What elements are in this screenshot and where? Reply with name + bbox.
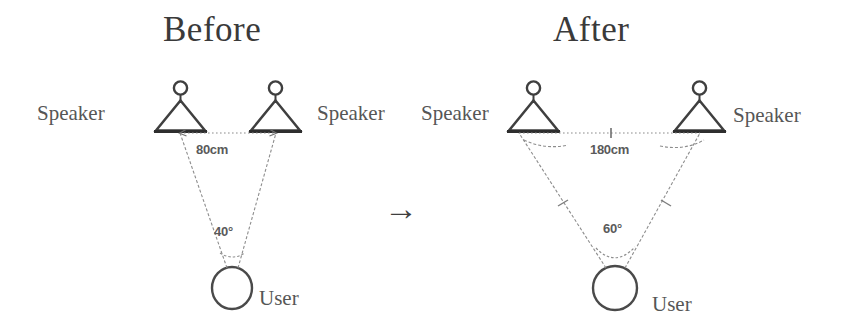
before-right-speaker-icon (249, 81, 302, 131)
after-user-head-icon (593, 266, 637, 310)
after-distance-label: 180cm (590, 143, 629, 156)
after-panel-title: After (553, 12, 629, 47)
after-right-speaker-icon (673, 81, 726, 131)
before-right-axis-line (238, 133, 276, 268)
diagram-canvas: Before After Speaker Speaker Speaker Spe… (0, 0, 854, 336)
before-left-speaker-icon (154, 81, 207, 131)
before-diagram (154, 81, 302, 309)
after-diagram (507, 81, 726, 310)
after-angle-label: 60° (603, 222, 622, 235)
before-angle-label: 40° (214, 225, 233, 238)
after-right-speaker-label: Speaker (733, 105, 801, 126)
transition-right-arrow-icon: → (384, 192, 418, 226)
after-left-axis-tick (558, 200, 568, 206)
after-angle-arc (596, 247, 635, 258)
before-panel-title: Before (163, 12, 261, 47)
after-left-speaker-label: Speaker (421, 103, 489, 124)
before-right-speaker-label: Speaker (317, 103, 385, 124)
before-distance-label: 80cm (196, 143, 228, 156)
after-right-axis-tick (661, 200, 671, 206)
before-user-label: User (259, 288, 299, 309)
after-user-label: User (652, 294, 692, 315)
before-left-speaker-label: Speaker (37, 103, 105, 124)
after-right-speaker-arc (660, 140, 704, 148)
diagram-vector-layer (0, 0, 854, 336)
after-left-speaker-arc (524, 140, 568, 147)
after-left-speaker-icon (507, 81, 560, 131)
before-user-head-icon (212, 267, 252, 309)
